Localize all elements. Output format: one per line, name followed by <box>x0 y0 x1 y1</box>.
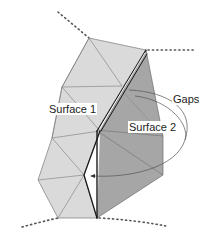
surface-1-label: Surface 1 <box>48 103 97 115</box>
mesh-diagram <box>0 0 208 238</box>
gaps-label: Gaps <box>172 93 200 105</box>
surface-2-label: Surface 2 <box>128 121 177 133</box>
